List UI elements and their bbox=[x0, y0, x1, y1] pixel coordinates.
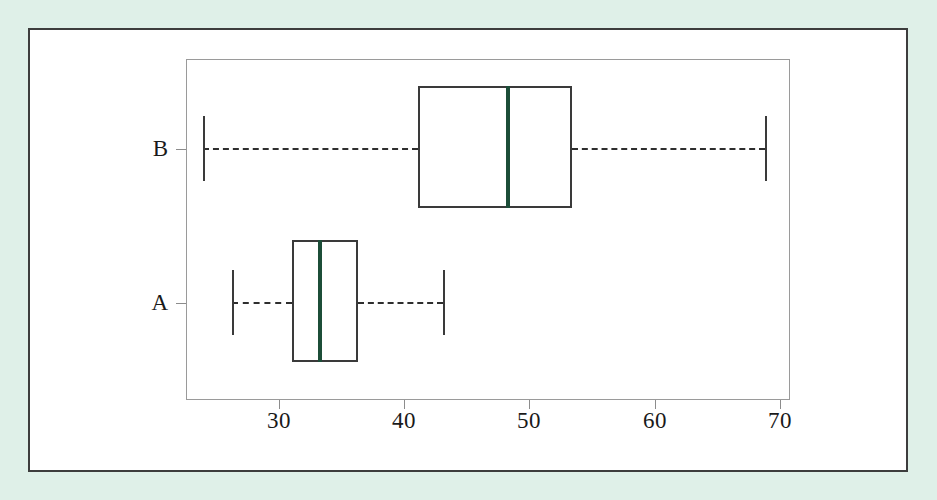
boxplot-b-whisker-high-cap bbox=[765, 116, 767, 181]
boxplot-a-whisker-high-line bbox=[358, 302, 443, 304]
boxplot-b-box bbox=[418, 86, 572, 208]
y-tick-mark-b bbox=[176, 149, 186, 150]
boxplot-a-median-line bbox=[318, 240, 322, 362]
x-tick-label-50: 50 bbox=[499, 409, 559, 432]
boxplot-a-whisker-high-cap bbox=[443, 270, 445, 335]
boxplot-a-whisker-low-cap bbox=[232, 270, 234, 335]
x-tick-label-60: 60 bbox=[625, 409, 685, 432]
boxplot-b-whisker-high-line bbox=[572, 148, 765, 150]
x-tick-label-30: 30 bbox=[249, 409, 309, 432]
boxplot-chart: 30 40 50 60 70 B A bbox=[0, 0, 937, 500]
boxplot-a-whisker-low-line bbox=[232, 302, 292, 304]
y-tick-mark-a bbox=[176, 303, 186, 304]
boxplot-b-median-line bbox=[506, 86, 510, 208]
boxplot-b-whisker-low-line bbox=[203, 148, 418, 150]
boxplot-a-box bbox=[292, 240, 358, 362]
boxplot-b-whisker-low-cap bbox=[203, 116, 205, 181]
y-tick-label-a: A bbox=[128, 291, 168, 314]
x-tick-label-40: 40 bbox=[374, 409, 434, 432]
x-tick-label-70: 70 bbox=[750, 409, 810, 432]
y-tick-label-b: B bbox=[128, 137, 168, 160]
